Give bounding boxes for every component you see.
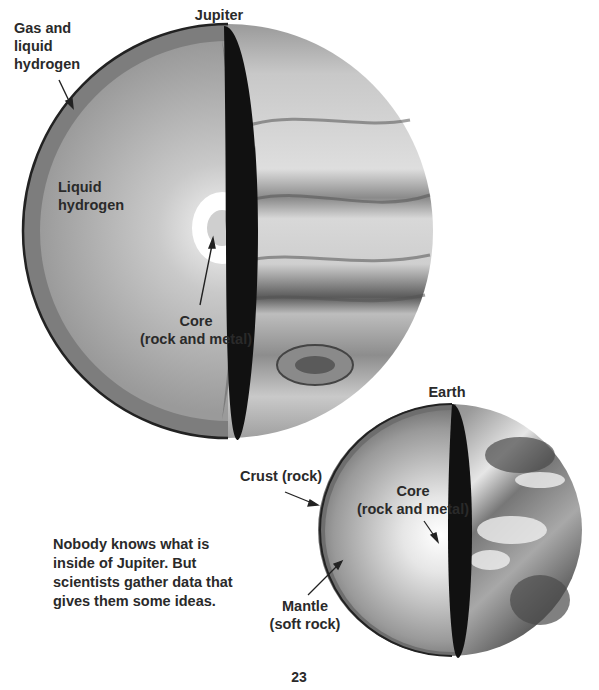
jupiter-title: Jupiter	[184, 6, 254, 24]
caption-text: Nobody knows what is inside of Jupiter. …	[53, 535, 233, 611]
label-line: Gas and	[14, 19, 80, 37]
label-line: (soft rock)	[262, 615, 348, 633]
page-number: 23	[279, 668, 319, 686]
label-line: Core	[134, 312, 258, 330]
caption-line: gives them some ideas.	[53, 592, 233, 611]
label-line: (rock and metal)	[134, 330, 258, 348]
label-line: liquid	[14, 37, 80, 55]
caption-line: inside of Jupiter. But	[53, 554, 233, 573]
label-line: Liquid	[58, 178, 124, 196]
caption-line: scientists gather data that	[53, 573, 233, 592]
label-earth-core: Core (rock and metal)	[352, 482, 474, 518]
label-line: Core	[352, 482, 474, 500]
jupiter-sphere	[23, 24, 433, 440]
label-liquid-hydrogen: Liquid hydrogen	[58, 178, 124, 214]
earth-sphere	[318, 404, 582, 658]
earth-title: Earth	[412, 383, 482, 401]
label-gas-liquid-hydrogen: Gas and liquid hydrogen	[14, 19, 80, 73]
label-line: hydrogen	[14, 55, 80, 73]
label-line: Mantle	[262, 597, 348, 615]
label-crust: Crust (rock)	[240, 467, 322, 485]
label-line: hydrogen	[58, 196, 124, 214]
label-jupiter-core: Core (rock and metal)	[134, 312, 258, 348]
label-line: (rock and metal)	[352, 500, 474, 518]
caption-line: Nobody knows what is	[53, 535, 233, 554]
label-mantle: Mantle (soft rock)	[262, 597, 348, 633]
